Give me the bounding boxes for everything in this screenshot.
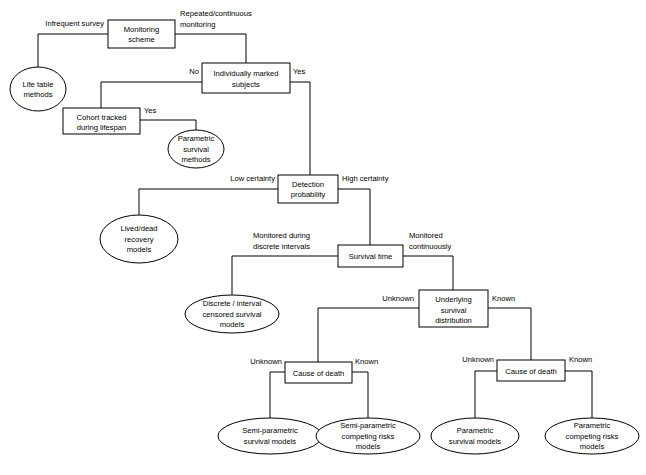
edge-detection-low-certainty (139, 189, 278, 215)
node-life-table-methods-ellipse[interactable] (10, 67, 66, 111)
node-semi-parametric-survival-models-label-line1: Semi-parametric (242, 426, 298, 435)
node-parametric-survival-models-label-line1: Parametric (457, 426, 494, 435)
edge-label-yes-cohort: Yes (144, 106, 157, 115)
node-individually-marked-subjects[interactable]: Individually marked subjects (202, 63, 290, 93)
node-cause-of-death-left[interactable]: Cause of death (285, 362, 352, 383)
node-survival-time[interactable]: Survival time (338, 245, 403, 267)
edge-label-known-distribution: Known (492, 294, 515, 303)
node-semi-parametric-competing-risks-label-line3: models (356, 442, 381, 451)
node-cause-of-death-right-label: Cause of death (505, 367, 557, 376)
edge-label-high-certainty: High certainty (342, 174, 389, 183)
edge-individually-marked-no (101, 82, 202, 108)
edge-label-no-individually-marked: No (189, 67, 199, 76)
edge-distribution-unknown (318, 308, 419, 362)
node-parametric-survival-methods-label-line1: Parametric (178, 134, 215, 143)
edge-monitoring-to-life-table (38, 34, 108, 67)
edge-label-monitored-discrete-line1: Monitored during (253, 231, 310, 240)
edge-label-unknown-distribution: Unknown (382, 294, 414, 303)
node-parametric-survival-models-label-line2: survival models (449, 437, 502, 446)
node-detection-probability-label-line1: Detection (292, 180, 324, 189)
edge-individually-marked-yes (290, 82, 310, 175)
edge-label-known-cod-left: Known (355, 357, 378, 366)
node-life-table-methods[interactable]: Life table methods (10, 67, 66, 111)
node-discrete-interval-censored[interactable]: Discrete / interval censored survival mo… (185, 295, 279, 333)
edge-label-monitored-continuously-line2: continuously (409, 242, 451, 251)
edge-label-known-cod-right: Known (569, 355, 592, 364)
node-individually-marked-subjects-label-line1: Individually marked (214, 69, 279, 78)
node-semi-parametric-survival-models-label-line2: survival models (244, 437, 297, 446)
node-detection-probability-label-line2: probability (291, 190, 326, 199)
node-cohort-tracked-label-line1: Cohort tracked (77, 113, 127, 122)
node-parametric-survival-methods-label-line3: methods (181, 155, 210, 164)
node-individually-marked-subjects-rect[interactable] (202, 63, 290, 93)
node-underlying-survival-distribution-label-line1: Underlying (435, 295, 471, 304)
node-lived-dead-recovery-models-label-line3: models (127, 245, 152, 254)
node-underlying-survival-distribution[interactable]: Underlying survival distribution (419, 290, 488, 327)
node-underlying-survival-distribution-label-line2: survival (441, 306, 467, 315)
node-cohort-tracked-label-line2: during lifespan (77, 123, 126, 132)
edge-label-infrequent-survey: Infrequent survey (45, 19, 104, 28)
edge-cod-right-unknown (475, 371, 497, 418)
node-individually-marked-subjects-label-line2: subjects (232, 80, 260, 89)
node-discrete-interval-censored-label-line1: Discrete / interval (203, 299, 262, 308)
node-parametric-survival-methods-label-line2: survival (183, 145, 209, 154)
edge-survival-discrete-intervals (232, 256, 338, 295)
edge-label-repeated-continuous-line1: Repeated/continuous (180, 9, 252, 18)
node-parametric-competing-risks-models-label-line1: Parametric (574, 421, 611, 430)
node-life-table-methods-label-line2: methods (23, 90, 52, 99)
node-cohort-tracked[interactable]: Cohort tracked during lifespan (63, 108, 140, 134)
node-underlying-survival-distribution-label-line3: distribution (435, 316, 472, 325)
edge-cod-left-unknown (270, 372, 285, 418)
edge-label-low-certainty: Low certainty (230, 174, 275, 183)
edge-cod-right-known (565, 371, 592, 418)
node-lived-dead-recovery-models-label-line2: recovery (124, 235, 153, 244)
edge-label-monitored-discrete-line2: discrete intervals (253, 242, 310, 251)
node-parametric-survival-models[interactable]: Parametric survival models (431, 418, 519, 454)
edge-monitoring-to-individually-marked (175, 34, 246, 63)
node-monitoring-scheme[interactable]: Monitoring scheme (108, 20, 175, 48)
diagram-canvas: Infrequent survey Repeated/continuous mo… (0, 0, 646, 475)
node-detection-probability[interactable]: Detection probability (278, 175, 338, 203)
node-parametric-competing-risks-models-label-line2: competing risks (566, 432, 619, 441)
edge-detection-high-certainty (338, 189, 370, 245)
node-discrete-interval-censored-label-line3: models (220, 320, 245, 329)
node-semi-parametric-competing-risks-label-line1: Semi-parametric (340, 421, 396, 430)
edge-label-yes-individually-marked: Yes (293, 67, 306, 76)
edge-label-unknown-cod-left: Unknown (250, 357, 282, 366)
edge-survival-continuously (403, 256, 453, 290)
node-parametric-competing-risks-models-label-line3: models (580, 442, 605, 451)
flowchart-svg: Infrequent survey Repeated/continuous mo… (0, 0, 646, 475)
node-lived-dead-recovery-models[interactable]: Lived/dead recovery models (100, 215, 178, 263)
node-monitoring-scheme-label-line2: scheme (128, 35, 155, 44)
node-discrete-interval-censored-label-line2: censored survival (202, 310, 261, 319)
edge-cod-left-known (352, 372, 368, 418)
node-life-table-methods-label-line1: Life table (23, 80, 54, 89)
node-semi-parametric-competing-risks-label-line2: competing risks (342, 432, 395, 441)
node-survival-time-label: Survival time (349, 252, 392, 261)
node-semi-parametric-competing-risks[interactable]: Semi-parametric competing risks models (316, 418, 420, 454)
node-parametric-survival-methods[interactable]: Parametric survival methods (168, 130, 224, 168)
edge-label-monitored-continuously-line1: Monitored (409, 231, 443, 240)
edge-label-repeated-continuous-line2: monitoring (180, 20, 215, 29)
edge-label-unknown-cod-right: Unknown (462, 355, 494, 364)
node-lived-dead-recovery-models-label-line1: Lived/dead (120, 224, 157, 233)
node-semi-parametric-survival-models[interactable]: Semi-parametric survival models (218, 418, 322, 454)
node-cause-of-death-right[interactable]: Cause of death (497, 360, 565, 381)
node-cause-of-death-left-label: Cause of death (293, 369, 345, 378)
edge-distribution-known (488, 308, 531, 360)
node-monitoring-scheme-label-line1: Monitoring (124, 25, 159, 34)
node-parametric-competing-risks-models[interactable]: Parametric competing risks models (545, 418, 639, 454)
edge-cohort-yes (140, 120, 196, 130)
